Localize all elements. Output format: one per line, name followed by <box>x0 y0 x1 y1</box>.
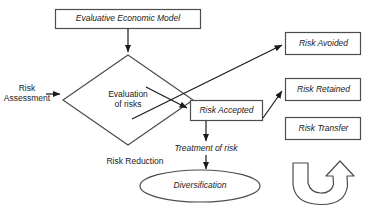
diagram-vector-layer <box>0 0 371 211</box>
diagram-canvas: Evaluative Economic Model Risk Assessmen… <box>0 0 371 211</box>
shape-risk-avoided[interactable] <box>286 33 361 55</box>
shape-evaluation-of-risks-diamond[interactable] <box>63 55 193 145</box>
shape-risk-transfer[interactable] <box>286 118 361 140</box>
shape-diversification-ellipse[interactable] <box>140 170 260 202</box>
shape-risk-retained[interactable] <box>286 79 361 101</box>
curved-arrow-icon <box>293 161 354 205</box>
shape-risk-accepted[interactable] <box>191 101 263 121</box>
edge-accepted-to-retained <box>263 91 282 118</box>
shape-evaluative-economic-model[interactable] <box>56 10 201 29</box>
